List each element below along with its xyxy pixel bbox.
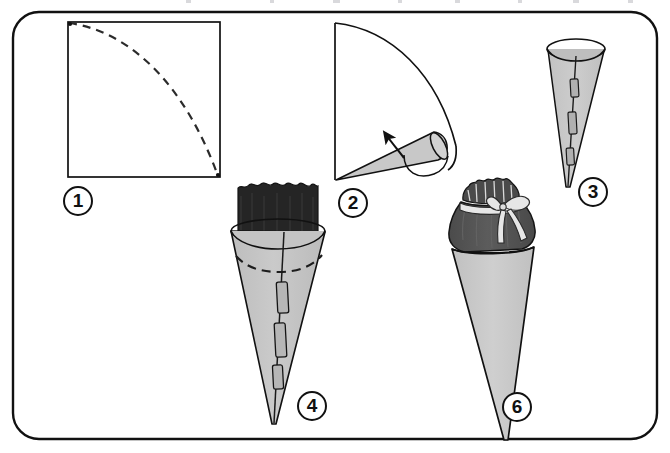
step-badge-6-label: 6 <box>512 397 523 417</box>
tape-strip-3 <box>272 365 283 389</box>
arc-end-dot <box>216 173 220 177</box>
tape-strip-1 <box>276 282 289 314</box>
tissue-collar-texture <box>241 193 313 231</box>
tissue-collar <box>238 183 318 232</box>
sector-arc-tail <box>448 146 456 170</box>
step-badge-1: 1 <box>63 186 93 216</box>
step-badge-4: 4 <box>297 391 327 421</box>
illustration-layer <box>0 0 670 453</box>
step-badge-1-label: 1 <box>73 191 84 211</box>
tape-strip-2 <box>568 112 577 134</box>
tape-strip-1 <box>570 79 579 97</box>
step-1-illustration <box>68 22 220 177</box>
step-4-illustration <box>231 183 325 424</box>
step-badge-3: 3 <box>578 177 608 207</box>
step-badge-2-label: 2 <box>348 193 359 213</box>
step-badge-3-label: 3 <box>588 182 599 202</box>
step-badge-2: 2 <box>338 188 368 218</box>
step-2-illustration <box>335 23 456 180</box>
paper-square-outline <box>68 22 220 177</box>
step-badge-4-label: 4 <box>307 396 318 416</box>
tape-strip-3 <box>566 148 574 165</box>
tape-strip-2 <box>274 323 287 358</box>
diagram-canvas: 1 2 3 4 6 <box>0 0 670 453</box>
step-3-illustration <box>547 39 605 187</box>
ribbon-bow-knot <box>500 204 506 210</box>
step-badge-6: 6 <box>502 392 532 422</box>
arc-start-dot <box>68 22 72 26</box>
